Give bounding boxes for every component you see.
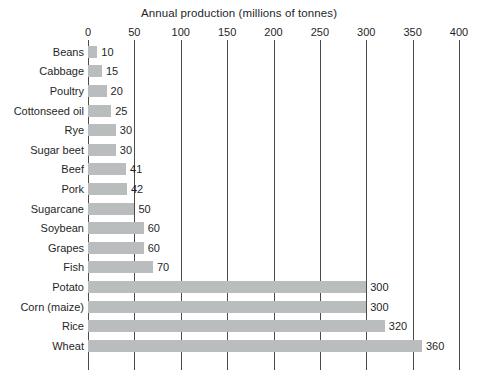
x-tick-label-300: 300 (357, 26, 375, 38)
bar-row: Potato300 (0, 277, 478, 297)
bar (88, 281, 366, 293)
bar-value-label: 42 (131, 183, 143, 195)
annual-production-bar-chart: Annual production (millions of tonnes) 0… (0, 0, 478, 377)
bar (88, 222, 144, 234)
category-label: Rice (62, 320, 84, 332)
category-label: Poultry (50, 85, 84, 97)
category-label: Pork (61, 183, 84, 195)
bar (88, 124, 116, 136)
bar-row: Poultry20 (0, 81, 478, 101)
bar-row: Wheat360 (0, 336, 478, 356)
bar-value-label: 25 (115, 105, 127, 117)
bar-row: Cabbage15 (0, 62, 478, 82)
bar-row: Rice320 (0, 316, 478, 336)
bar (88, 183, 127, 195)
x-tick-label-100: 100 (172, 26, 190, 38)
bar-row: Cottonseed oil25 (0, 101, 478, 121)
category-label: Beans (53, 46, 84, 58)
bar-value-label: 15 (106, 65, 118, 77)
category-label: Corn (maize) (20, 301, 84, 313)
bar-row: Soybean60 (0, 218, 478, 238)
bar-value-label: 41 (130, 163, 142, 175)
bar-value-label: 30 (120, 144, 132, 156)
bar (88, 301, 366, 313)
bar-row: Fish70 (0, 258, 478, 278)
bar (88, 163, 126, 175)
category-label: Cabbage (39, 65, 84, 77)
x-tick-label-150: 150 (218, 26, 236, 38)
bar-value-label: 70 (157, 261, 169, 273)
bar (88, 340, 422, 352)
bar-value-label: 60 (148, 242, 160, 254)
bar-value-label: 50 (138, 203, 150, 215)
bar-row: Sugarcane50 (0, 199, 478, 219)
bar-row: Beans10 (0, 42, 478, 62)
bar-value-label: 300 (370, 281, 388, 293)
category-label: Fish (63, 261, 84, 273)
bar (88, 261, 153, 273)
bar-row: Rye30 (0, 120, 478, 140)
category-label: Cottonseed oil (14, 105, 84, 117)
bar (88, 105, 111, 117)
bar-rows: Beans10Cabbage15Poultry20Cottonseed oil2… (0, 40, 478, 370)
bar (88, 85, 107, 97)
bar (88, 65, 102, 77)
category-label: Potato (52, 281, 84, 293)
category-label: Grapes (48, 242, 84, 254)
bar-row: Sugar beet30 (0, 140, 478, 160)
bar (88, 320, 385, 332)
bar-value-label: 10 (101, 46, 113, 58)
category-label: Sugarcane (31, 203, 84, 215)
x-tick-label-350: 350 (403, 26, 421, 38)
bar-value-label: 60 (148, 222, 160, 234)
bar-value-label: 20 (111, 85, 123, 97)
bar (88, 242, 144, 254)
bar (88, 144, 116, 156)
bar-value-label: 300 (370, 301, 388, 313)
x-axis-tick-labels: 050100150200250300350400 (0, 26, 478, 40)
x-tick-label-400: 400 (450, 26, 468, 38)
x-tick-label-200: 200 (264, 26, 282, 38)
bar-row: Grapes60 (0, 238, 478, 258)
bar-row: Pork42 (0, 179, 478, 199)
bar-value-label: 320 (389, 320, 407, 332)
x-tick-label-0: 0 (85, 26, 91, 38)
category-label: Rye (64, 124, 84, 136)
bar-value-label: 30 (120, 124, 132, 136)
category-label: Beef (61, 163, 84, 175)
chart-title: Annual production (millions of tonnes) (0, 7, 478, 19)
category-label: Sugar beet (30, 144, 84, 156)
x-tick-label-50: 50 (128, 26, 140, 38)
bar-row: Corn (maize)300 (0, 297, 478, 317)
x-tick-label-250: 250 (311, 26, 329, 38)
bar (88, 46, 97, 58)
bar-row: Beef41 (0, 160, 478, 180)
category-label: Wheat (52, 340, 84, 352)
bar (88, 203, 134, 215)
category-label: Soybean (41, 222, 84, 234)
bar-value-label: 360 (426, 340, 444, 352)
